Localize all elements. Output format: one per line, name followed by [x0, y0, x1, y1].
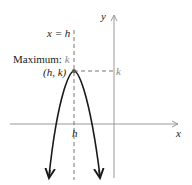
parabola-diagram: y x x = h Maximum: k (h, k) k h [0, 0, 192, 185]
left-arrow-tip [49, 170, 50, 178]
x-tick-h-label: h [72, 127, 78, 139]
axis-of-symmetry-label: x = h [46, 27, 71, 39]
y-axis-label: y [100, 10, 106, 22]
maximum-label-prefix: Maximum: [13, 53, 65, 65]
maximum-label: Maximum: k [13, 53, 71, 65]
maximum-label-value: k [65, 53, 71, 65]
y-tick-k-label: k [116, 65, 122, 77]
vertex-point [72, 69, 76, 73]
x-axis-label: x [175, 127, 181, 139]
vertex-label: (h, k) [43, 66, 67, 79]
right-arrow-tip [99, 170, 100, 178]
